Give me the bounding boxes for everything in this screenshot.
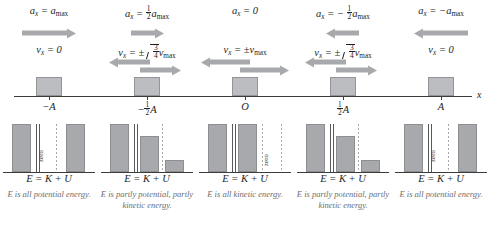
column-caption: E is all potential energy. (393, 189, 489, 200)
bar-total-energy (110, 124, 129, 172)
energy-equation: E = K + U (0, 173, 98, 184)
chart-gridline (448, 124, 449, 172)
acceleration-arrow-left-short (294, 26, 392, 40)
axis-tick (441, 96, 442, 100)
chart-divider (36, 124, 37, 172)
acceleration-arrow-left-long (392, 26, 490, 40)
bar-potential-energy (458, 124, 477, 172)
zero-label: zero (429, 150, 436, 162)
velocity-arrow-bidirectional (98, 59, 196, 73)
energy-equation: E = K + U (196, 173, 294, 184)
acceleration-arrow-right-short (98, 26, 196, 40)
velocity-arrow-none (0, 59, 98, 73)
state-column-minus-A: ax = amax vx = 0 −A zero E = K + U (0, 0, 98, 229)
column-caption: E is partly potential, partly kinetic en… (295, 189, 391, 211)
chart-gridline (281, 124, 282, 172)
glider-block (428, 77, 454, 96)
acceleration-arrow-none (196, 26, 294, 40)
glider-block (36, 77, 62, 96)
zero-label: zero (37, 150, 44, 162)
axis-tick (245, 96, 246, 100)
bar-kinetic-energy (238, 124, 257, 172)
chart-divider (431, 124, 432, 172)
state-column-minus-half-A: ax = 12amax vx = ± 34vmax −12A (98, 0, 196, 229)
chart-divider (333, 124, 334, 172)
velocity-arrow-bidirectional (294, 59, 392, 73)
acceleration-equation: ax = −amax (392, 5, 490, 18)
energy-equation: E = K + U (98, 173, 196, 184)
column-caption: E is all kinetic energy. (197, 189, 293, 200)
chart-divider (137, 124, 138, 172)
state-column-origin: ax = 0 vx = ±vmax O zero (196, 0, 294, 229)
energy-equation: E = K + U (392, 173, 490, 184)
bar-total-energy (306, 124, 325, 172)
column-caption: E is all potential energy. (1, 189, 97, 200)
bar-kinetic-energy (336, 136, 355, 172)
position-label: −12A (98, 101, 196, 117)
chart-divider (330, 124, 331, 172)
glider-block (232, 77, 258, 96)
velocity-equation: vx = 0 (0, 44, 98, 57)
axis-tick (147, 96, 148, 100)
bar-potential-energy (165, 160, 184, 172)
bar-total-energy (208, 124, 227, 172)
energy-bar-chart (303, 124, 383, 172)
position-label: A (392, 101, 490, 112)
velocity-arrow-bidirectional (196, 59, 294, 73)
chart-gridline (358, 124, 359, 172)
acceleration-equation: ax = 12amax (98, 5, 196, 21)
chart-divider (134, 124, 135, 172)
chart-gridline (56, 124, 57, 172)
glider-block (330, 77, 356, 96)
bar-kinetic-energy (140, 136, 159, 172)
chart-divider (428, 124, 429, 172)
column-caption: E is partly potential, partly kinetic en… (99, 189, 195, 211)
state-column-plus-half-A: ax = − 12amax vx = ± 34vmax 12A (294, 0, 392, 229)
chart-divider (39, 124, 40, 172)
zero-label: zero (262, 154, 269, 166)
velocity-equation: vx = 0 (392, 44, 490, 57)
energy-bar-chart (107, 124, 187, 172)
chart-divider (232, 124, 233, 172)
energy-equation: E = K + U (294, 173, 392, 184)
chart-divider (235, 124, 236, 172)
bar-potential-energy (66, 124, 85, 172)
bar-total-energy (12, 124, 31, 172)
position-label: 12A (294, 101, 392, 117)
shm-energy-diagram: x ax = amax vx = 0 −A zero (0, 0, 494, 229)
energy-bar-chart: zero (9, 124, 89, 172)
acceleration-equation: ax = amax (0, 5, 98, 18)
velocity-arrow-none (392, 59, 490, 73)
bar-potential-energy (361, 160, 380, 172)
energy-bar-chart: zero (205, 124, 285, 172)
bar-total-energy (404, 124, 423, 172)
state-column-plus-A: ax = −amax vx = 0 A zero E = K + U (392, 0, 490, 229)
axis-tick (343, 96, 344, 100)
acceleration-arrow-right-long (0, 26, 98, 40)
acceleration-equation: ax = − 12amax (294, 5, 392, 21)
chart-gridline (162, 124, 163, 172)
axis-tick (49, 96, 50, 100)
energy-bar-chart: zero (401, 124, 481, 172)
position-label: O (196, 101, 294, 112)
glider-block (134, 77, 160, 96)
velocity-equation: vx = ±vmax (196, 44, 294, 57)
position-label: −A (0, 101, 98, 112)
acceleration-equation: ax = 0 (196, 5, 294, 18)
